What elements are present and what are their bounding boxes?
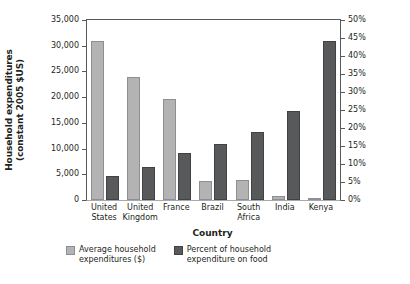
left-tick-label: 5,000: [56, 170, 79, 178]
chart-figure: Household expenditures (constant 2005 $U…: [0, 0, 410, 284]
legend-label-line: Average household: [79, 245, 156, 255]
x-tick-label: Kenya: [294, 203, 348, 213]
legend-label: Percent of householdexpenditure on food: [187, 245, 271, 265]
left-tick-label: 30,000: [51, 42, 79, 50]
left-tick-mark: [82, 97, 86, 98]
legend-swatch-icon: [66, 246, 75, 255]
right-tick-mark: [341, 146, 345, 147]
bar-group: [159, 20, 195, 200]
y-axis-title-line1: Household expenditures: [4, 49, 15, 171]
bar-percent-expenditure-on-food: [106, 176, 119, 200]
left-tick-mark: [82, 200, 86, 201]
right-tick-label: 25%: [348, 106, 366, 114]
bar-average-household-expenditures: [236, 180, 249, 200]
right-tick-label: 10%: [348, 160, 366, 168]
right-tick-mark: [341, 20, 345, 21]
plot-area: 05,00010,00015,00020,00025,00030,00035,0…: [86, 19, 341, 201]
bar-average-household-expenditures: [308, 198, 321, 200]
x-axis-title: Country: [86, 228, 339, 238]
left-tick-mark: [82, 20, 86, 21]
left-tick-mark: [82, 71, 86, 72]
right-tick-label: 0%: [348, 196, 361, 204]
y-axis-title: Household expenditures (constant 2005 $U…: [0, 19, 30, 200]
right-tick-label: 40%: [348, 52, 366, 60]
chart-legend: Average householdexpenditures ($)Percent…: [66, 245, 356, 265]
bar-group: [304, 20, 340, 200]
bar-average-household-expenditures: [127, 77, 140, 200]
bar-average-household-expenditures: [163, 99, 176, 200]
left-tick-label: 20,000: [51, 93, 79, 101]
bar-percent-expenditure-on-food: [323, 41, 336, 200]
bar-percent-expenditure-on-food: [251, 132, 264, 200]
legend-label-line: expenditures ($): [79, 255, 156, 265]
left-tick-mark: [82, 46, 86, 47]
bar-percent-expenditure-on-food: [142, 167, 155, 200]
bar-percent-expenditure-on-food: [214, 144, 227, 200]
right-tick-label: 45%: [348, 34, 366, 42]
left-tick-mark: [82, 149, 86, 150]
bar-group: [232, 20, 268, 200]
bar-group: [87, 20, 123, 200]
bar-average-household-expenditures: [272, 196, 285, 200]
right-tick-mark: [341, 128, 345, 129]
left-tick-label: 15,000: [51, 119, 79, 127]
bar-average-household-expenditures: [91, 41, 104, 200]
right-tick-mark: [341, 200, 345, 201]
right-tick-mark: [341, 164, 345, 165]
bar-average-household-expenditures: [199, 181, 212, 200]
legend-item[interactable]: Percent of householdexpenditure on food: [174, 245, 271, 265]
right-tick-mark: [341, 56, 345, 57]
legend-label-line: Percent of household: [187, 245, 271, 255]
x-tick-label-line: Africa: [222, 213, 276, 223]
right-tick-mark: [341, 74, 345, 75]
right-tick-label: 35%: [348, 70, 366, 78]
right-tick-mark: [341, 92, 345, 93]
left-tick-mark: [82, 123, 86, 124]
right-tick-mark: [341, 38, 345, 39]
bar-group: [123, 20, 159, 200]
legend-label: Average householdexpenditures ($): [79, 245, 156, 265]
right-tick-label: 50%: [348, 16, 366, 24]
bar-group: [195, 20, 231, 200]
left-tick-label: 25,000: [51, 67, 79, 75]
right-tick-label: 20%: [348, 124, 366, 132]
left-tick-label: 10,000: [51, 145, 79, 153]
legend-swatch-icon: [174, 246, 183, 255]
bar-percent-expenditure-on-food: [287, 111, 300, 200]
right-tick-label: 30%: [348, 88, 366, 96]
right-tick-mark: [341, 110, 345, 111]
bar-percent-expenditure-on-food: [178, 153, 191, 200]
y-axis-title-line2: (constant 2005 $US): [15, 49, 26, 171]
right-tick-label: 15%: [348, 142, 366, 150]
x-tick-label-line: Kingdom: [113, 213, 167, 223]
legend-item[interactable]: Average householdexpenditures ($): [66, 245, 156, 265]
left-tick-label: 35,000: [51, 16, 79, 24]
right-tick-label: 5%: [348, 178, 361, 186]
left-tick-mark: [82, 174, 86, 175]
bar-group: [268, 20, 304, 200]
legend-label-line: expenditure on food: [187, 255, 271, 265]
x-tick-label-line: Kenya: [294, 203, 348, 213]
right-tick-mark: [341, 182, 345, 183]
